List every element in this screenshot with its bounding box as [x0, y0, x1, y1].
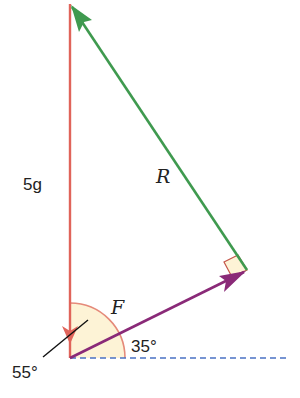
resultant-vector — [72, 7, 247, 270]
resultant-arrowhead-icon — [71, 5, 92, 32]
angle-35-label: 35° — [131, 337, 157, 356]
force-diagram: 5g R F 35° 55° — [0, 0, 300, 398]
angle-55-label: 55° — [12, 363, 38, 382]
force-label: F — [110, 296, 125, 318]
weight-label: 5g — [23, 175, 42, 194]
resultant-label: R — [155, 165, 170, 187]
